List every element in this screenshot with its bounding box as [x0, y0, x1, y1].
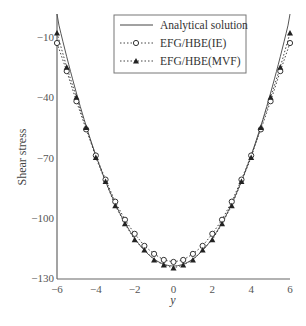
x-tick-label: −2	[129, 283, 141, 295]
y-tick-label: −130	[31, 272, 54, 284]
y-tick-label: −40	[37, 91, 55, 103]
ie-marker	[54, 40, 59, 45]
legend-ie: EFG/HBE(IE)	[160, 37, 227, 50]
x-tick-label: −6	[51, 283, 63, 295]
legend: Analytical solution EFG/HBE(IE) EFG/HBE(…	[114, 15, 248, 73]
ie-marker	[161, 257, 166, 262]
y-tick-label: −70	[37, 152, 55, 164]
mvf-marker	[268, 94, 274, 100]
ie-marker	[190, 251, 195, 256]
x-axis-label: y	[169, 293, 176, 307]
ie-marker	[151, 251, 156, 256]
legend-analytical: Analytical solution	[160, 19, 248, 32]
x-tick-label: 2	[210, 283, 216, 295]
mvf-marker	[54, 30, 60, 36]
x-tick-label: 6	[287, 283, 293, 295]
legend-mvf: EFG/HBE(MVF)	[160, 55, 241, 68]
mvf-marker	[132, 237, 138, 243]
ie-line	[57, 43, 290, 262]
y-tick-label: −100	[31, 212, 54, 224]
shear-stress-chart: −6−4−20246−10−40−70−100−130 Analytical s…	[0, 0, 306, 326]
y-tick-label: −10	[37, 31, 55, 43]
mvf-marker	[209, 237, 215, 243]
ie-marker	[210, 231, 215, 236]
ie-marker	[181, 257, 186, 262]
ie-marker	[287, 40, 292, 45]
ie-marker	[132, 231, 137, 236]
x-tick-label: −4	[90, 283, 102, 295]
x-tick-label: 4	[248, 283, 254, 295]
y-axis-label: Shear stress	[15, 128, 29, 185]
mvf-marker	[287, 30, 293, 36]
mvf-marker	[73, 94, 79, 100]
ie-marker	[171, 259, 176, 264]
